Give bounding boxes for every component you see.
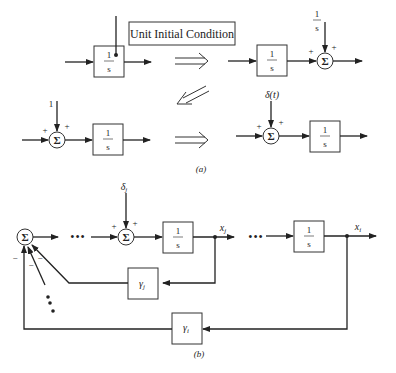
minus-sign: − xyxy=(28,260,33,270)
block-diagram: 1 s Unit Initial Condition 1 s Σ + + 1 s xyxy=(0,0,396,373)
input-numerator: 1 xyxy=(315,9,320,19)
a-bottom-right-group: Σ + + δ(t) 1 s xyxy=(236,89,367,152)
caption-a: (a) xyxy=(196,164,207,174)
xi-label: xi xyxy=(354,221,361,234)
feedback-return-j xyxy=(32,245,128,283)
input-denominator: s xyxy=(315,23,319,33)
integrator-numerator: 1 xyxy=(270,49,275,59)
unit-input-label: 1 xyxy=(49,99,54,109)
annotation-text: Unit Initial Condition xyxy=(130,27,234,41)
integrator-denominator: s xyxy=(270,63,274,73)
plus-sign: + xyxy=(278,117,283,127)
ellipsis-dots: ••• xyxy=(70,230,86,244)
impulse-input-label: δ(t) xyxy=(265,89,280,101)
integrator-denominator: s xyxy=(176,240,180,250)
plus-sign: + xyxy=(308,46,313,56)
integrator-denominator: s xyxy=(107,64,111,74)
integrator-numerator: 1 xyxy=(106,128,111,138)
a-top-right-group: 1 s Σ + + 1 s xyxy=(228,9,362,76)
plus-sign: + xyxy=(111,221,116,231)
plus-sign: + xyxy=(64,121,69,131)
minus-sign: − xyxy=(37,253,42,263)
integrator-numerator: 1 xyxy=(176,226,181,236)
feedback-path-i xyxy=(203,236,347,329)
initial-condition-dot xyxy=(114,53,118,57)
ellipsis-dot xyxy=(51,309,55,313)
plus-sign: + xyxy=(331,42,336,52)
equivalence-arrow-right-top xyxy=(175,53,208,69)
ellipsis-dot xyxy=(48,301,52,305)
sigma-symbol: Σ xyxy=(267,130,274,142)
a-bottom-left-group: Σ + + 1 1 s xyxy=(22,99,150,155)
sigma-symbol: Σ xyxy=(122,231,129,243)
integrator-denominator: s xyxy=(307,239,311,249)
plus-sign: + xyxy=(42,125,47,135)
xj-label: xj xyxy=(219,222,226,235)
ellipsis-dot xyxy=(46,295,50,299)
caption-b: (b) xyxy=(194,349,205,359)
plus-sign: + xyxy=(256,121,261,131)
plus-sign: + xyxy=(132,218,137,228)
sigma-symbol: Σ xyxy=(321,55,328,67)
integrator-numerator: 1 xyxy=(307,225,312,235)
ellipsis-dots: ••• xyxy=(248,230,264,244)
minus-sign: − xyxy=(12,253,17,263)
integrator-numerator: 1 xyxy=(107,50,112,60)
unit-initial-condition-label: Unit Initial Condition xyxy=(129,22,235,45)
integrator-numerator: 1 xyxy=(323,125,328,135)
part-b-diagram: Σ ••• Σ + + δj 1 s xj ••• 1 s xi γj xyxy=(12,181,376,359)
equivalence-arrow-right-bottom xyxy=(175,132,208,148)
integrator-denominator: s xyxy=(106,142,110,152)
sigma-symbol: Σ xyxy=(53,134,60,146)
integrator-denominator: s xyxy=(323,139,327,149)
equivalence-arrow-diagonal xyxy=(177,86,209,104)
delta-j-label: δj xyxy=(121,181,128,194)
sigma-symbol: Σ xyxy=(21,231,28,243)
